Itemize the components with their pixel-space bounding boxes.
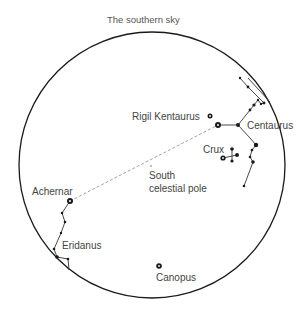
hadar-star: [208, 114, 213, 119]
label-crux: Crux: [203, 144, 224, 155]
label-rigil-kentaurus: Rigil Kentaurus: [132, 111, 200, 122]
label-canopus: Canopus: [156, 272, 196, 283]
sky-circle: [19, 32, 285, 298]
diagram-title: The southern sky: [107, 14, 180, 25]
label-south-celestial-pole-line2: celestial pole: [149, 183, 207, 194]
canopus-star: [156, 263, 162, 269]
label-south-celestial-pole-line1: South: [149, 170, 175, 181]
label-centaurus: Centaurus: [247, 120, 293, 131]
rigil-kentaurus-star: [215, 122, 221, 128]
centaurus-constellation: [218, 78, 270, 186]
label-eridanus: Eridanus: [62, 240, 101, 251]
centaurus-stars: [236, 77, 265, 188]
south-celestial-pole-marker: [150, 165, 152, 167]
label-achernar: Achernar: [32, 186, 73, 197]
achernar-star: [67, 198, 73, 204]
southern-sky-diagram: [0, 0, 304, 315]
